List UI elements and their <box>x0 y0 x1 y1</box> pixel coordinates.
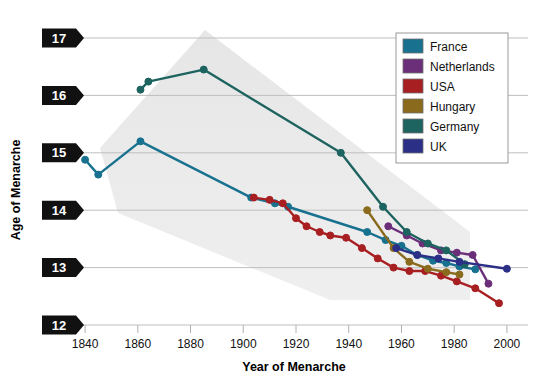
data-point <box>358 245 365 252</box>
legend-swatch <box>403 139 423 153</box>
x-axis-tick-labels: 184018601880190019201940196019802000 <box>72 337 521 351</box>
data-point <box>456 271 463 278</box>
x-tick-label-1880: 1880 <box>177 337 204 351</box>
data-point <box>496 300 503 307</box>
legend-item-hungary[interactable]: Hungary <box>403 99 475 114</box>
data-point <box>137 138 144 145</box>
data-point <box>327 232 334 239</box>
data-point <box>380 203 387 210</box>
x-tick-label-2000: 2000 <box>494 337 521 351</box>
data-point <box>279 200 286 207</box>
legend-swatch <box>403 79 423 93</box>
data-point <box>443 269 450 276</box>
y-axis-tag-13: 13 <box>42 258 84 277</box>
y-axis-tag-17: 17 <box>42 29 84 48</box>
data-point <box>385 223 392 230</box>
x-tick-label-1940: 1940 <box>335 337 362 351</box>
y-axis-tag-14: 14 <box>42 201 84 220</box>
data-point <box>472 266 479 273</box>
data-point <box>364 207 371 214</box>
tag-label: 13 <box>52 260 66 275</box>
data-point <box>374 255 381 262</box>
x-tick-label-1980: 1980 <box>441 337 468 351</box>
data-point <box>200 66 207 73</box>
data-point <box>266 196 273 203</box>
data-point <box>343 234 350 241</box>
tag-label: 14 <box>52 203 67 218</box>
data-point <box>424 265 431 272</box>
data-point <box>435 255 442 262</box>
x-tick-label-1960: 1960 <box>388 337 415 351</box>
y-axis-tag-12: 12 <box>42 316 84 335</box>
data-point <box>403 229 410 236</box>
x-tick-label-1920: 1920 <box>283 337 310 351</box>
data-point <box>453 278 460 285</box>
legend-item-germany[interactable]: Germany <box>403 119 479 134</box>
data-point <box>390 264 397 271</box>
data-point <box>137 86 144 93</box>
data-point <box>503 265 510 272</box>
x-tick-label-1860: 1860 <box>124 337 151 351</box>
x-tick-label-1900: 1900 <box>230 337 257 351</box>
data-point <box>145 78 152 85</box>
legend-swatch <box>403 39 423 53</box>
data-point <box>443 247 450 254</box>
data-point <box>424 240 431 247</box>
figure-container: Figure 9.4Trends in Age of Menarche 1213… <box>0 0 538 383</box>
legend-label: Netherlands <box>430 60 495 74</box>
data-point <box>95 171 102 178</box>
tag-label: 12 <box>52 318 66 333</box>
y-axis-tag-15: 15 <box>42 143 84 162</box>
data-point <box>393 245 400 252</box>
data-point <box>316 229 323 236</box>
x-axis-title: Year of Menarche <box>242 360 346 374</box>
data-point <box>456 258 463 265</box>
tag-label: 16 <box>52 88 66 103</box>
data-point <box>303 223 310 230</box>
data-point <box>414 251 421 258</box>
data-point <box>406 258 413 265</box>
legend-swatch <box>403 99 423 113</box>
menarche-trend-chart: 121314151617 184018601880190019201940196… <box>0 0 538 383</box>
data-point <box>485 280 492 287</box>
legend-label: France <box>430 40 468 54</box>
legend-label: UK <box>430 140 447 154</box>
legend-item-netherlands[interactable]: Netherlands <box>403 59 495 74</box>
legend-item-france[interactable]: France <box>403 39 468 54</box>
legend-label: Hungary <box>430 100 475 114</box>
data-point <box>406 268 413 275</box>
legend-label: USA <box>430 80 455 94</box>
data-point <box>82 156 89 163</box>
y-axis-title: Age of Menarche <box>9 140 23 241</box>
legend-swatch <box>403 119 423 133</box>
data-point <box>469 251 476 258</box>
data-point <box>364 229 371 236</box>
data-point <box>250 194 257 201</box>
data-point <box>472 285 479 292</box>
tag-label: 17 <box>52 31 66 46</box>
legend-label: Germany <box>430 120 479 134</box>
x-tick-label-1840: 1840 <box>72 337 99 351</box>
data-point <box>337 149 344 156</box>
legend-swatch <box>403 59 423 73</box>
tag-label: 15 <box>52 145 66 160</box>
data-point <box>293 215 300 222</box>
y-axis-tag-16: 16 <box>42 86 84 105</box>
chart-legend: FranceNetherlandsUSAHungaryGermanyUK <box>396 33 508 163</box>
